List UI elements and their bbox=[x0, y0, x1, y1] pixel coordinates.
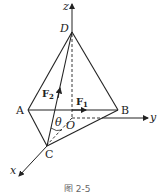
label-f1: F1 bbox=[76, 96, 88, 109]
figure-caption: 图 2-5 bbox=[64, 184, 91, 192]
edge-AC bbox=[28, 110, 47, 146]
label-x: x bbox=[10, 164, 17, 177]
label-theta: θ bbox=[55, 116, 62, 129]
label-f2: F2 bbox=[42, 88, 54, 101]
label-D: D bbox=[59, 22, 69, 35]
x-axis bbox=[19, 146, 47, 176]
label-y: y bbox=[149, 111, 157, 124]
label-z: z bbox=[62, 0, 69, 13]
tetrahedron-force-diagram: z D A B C O y x θ F2 F1 图 2-5 bbox=[0, 0, 159, 192]
label-B: B bbox=[121, 104, 129, 117]
label-A: A bbox=[15, 104, 25, 117]
label-O: O bbox=[66, 119, 75, 132]
label-C: C bbox=[45, 148, 53, 161]
